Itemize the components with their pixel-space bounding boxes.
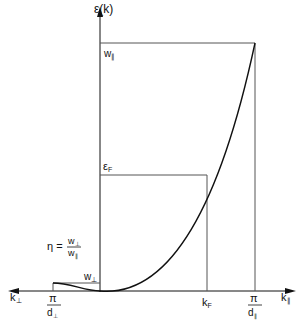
eta-numerator: w⊥ [67,236,80,247]
kf-label: kF [202,296,212,309]
x-axis-right-arrow-icon [285,288,296,294]
pi-d-perp-denominator: d⊥ [47,307,58,319]
eta-label: η = [47,240,63,252]
x-axis-right-label: k∥ [281,291,291,305]
dispersion-diagram: ε(k) w∥ εF w⊥ η = w⊥ w∥ k⊥ k∥ kF π d∥ π … [0,0,304,320]
w-perp-label: w⊥ [83,271,97,283]
dispersion-curve-perp [53,283,100,291]
pi-d-par-numerator: π [250,292,258,304]
pi-d-par-denominator: d∥ [248,307,257,320]
pi-d-perp-numerator: π [49,292,57,304]
eps-f-label: εF [103,160,112,173]
y-axis-label: ε(k) [94,2,113,16]
dispersion-curve-par [100,43,255,291]
w-par-label: w∥ [103,48,115,61]
eta-denominator: w∥ [67,248,78,260]
